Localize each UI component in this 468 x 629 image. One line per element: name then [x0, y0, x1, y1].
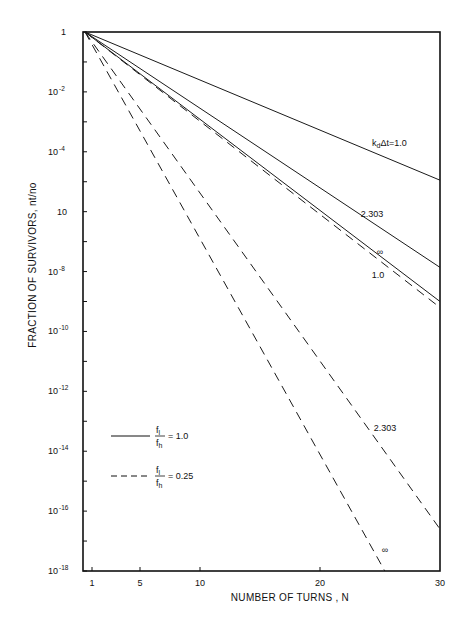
x-tick-label: 30 [435, 578, 445, 588]
legend: flfh= 1.0flfh= 0.25 [111, 425, 193, 489]
series-label: ∞ [382, 545, 388, 555]
x-tick-label: 5 [137, 578, 142, 588]
y-tick-label: 10 [48, 87, 58, 97]
y-tick-exponent: -14 [59, 444, 69, 451]
series-label: 2.303 [361, 209, 384, 219]
series-label: 2.303 [374, 423, 397, 433]
series-line [85, 32, 385, 571]
x-axis-ticks: 15102030 [89, 567, 445, 588]
series-line [85, 32, 440, 308]
y-tick-label: 10 [48, 267, 58, 277]
y-tick-exponent: -10 [59, 324, 69, 331]
y-tick-label: 10 [48, 506, 58, 516]
y-tick-exponent: -4 [59, 145, 65, 152]
legend-fraction-denominator: fh [156, 478, 163, 489]
legend-fraction-numerator: fl [156, 425, 161, 436]
series-label: ∞ [377, 247, 383, 257]
y-tick-label: 10 [48, 326, 58, 336]
plot-frame [83, 32, 440, 571]
y-tick-exponent: -8 [59, 265, 65, 272]
y-tick-label: 10 [48, 446, 58, 456]
y-tick-label: 10 [48, 386, 58, 396]
legend-value: = 1.0 [168, 431, 188, 441]
y-tick-exponent: -12 [59, 384, 69, 391]
legend-fraction-denominator: fh [156, 438, 163, 449]
legend-fraction-numerator: fl [156, 465, 161, 476]
y-tick-label: 10 [48, 147, 58, 157]
plot-border [83, 32, 440, 571]
x-tick-label: 10 [195, 578, 205, 588]
x-tick-label: 20 [315, 578, 325, 588]
y-tick-exponent: -18 [59, 564, 69, 571]
y-axis-ticks: 110-210-41010-810-1010-1210-1410-1610-18 [48, 27, 87, 576]
y-tick-label: 10 [48, 566, 58, 576]
x-tick-label: 1 [89, 578, 94, 588]
series-line [85, 32, 440, 267]
series-lines [85, 32, 440, 571]
survivor-fraction-chart: 110-210-41010-810-1010-1210-1410-1610-18… [0, 0, 468, 629]
x-axis-title: NUMBER OF TURNS , N [231, 592, 349, 603]
y-tick-label: 1 [61, 27, 66, 37]
series-label: kdΔt=1.0 [372, 138, 407, 149]
series-line [85, 32, 440, 302]
y-tick-exponent: -2 [59, 85, 65, 92]
series-label: 1.0 [372, 270, 385, 280]
y-axis-title: FRACTION OF SURVIVORS, nt/no [27, 182, 38, 348]
y-tick-exponent: -16 [59, 504, 69, 511]
legend-value: = 0.25 [168, 471, 193, 481]
series-labels: kdΔt=1.02.303∞1.02.303∞ [361, 138, 407, 555]
y-tick-label: 10 [57, 207, 67, 217]
